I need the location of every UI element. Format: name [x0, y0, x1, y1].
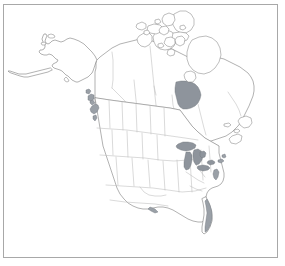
nova-scotia — [229, 134, 242, 144]
figure-root — [0, 0, 285, 266]
arctic-small-island-a — [155, 19, 161, 24]
north-america-map — [0, 0, 285, 266]
haida-gwaii-north — [86, 89, 91, 94]
prince-patrick-island — [136, 22, 146, 30]
kodiak-island — [64, 77, 69, 82]
long-island — [218, 159, 224, 163]
alaska-group — [8, 34, 97, 82]
aleutian-chain — [8, 68, 52, 77]
georgian-bay — [200, 151, 206, 158]
lake-erie — [197, 165, 210, 171]
newfoundland — [238, 116, 252, 128]
cape-cod — [222, 154, 226, 158]
somerset-island — [175, 36, 185, 46]
king-william-island — [167, 49, 175, 56]
bc-coastal-island-a — [90, 100, 95, 105]
seward-peninsula — [48, 34, 55, 38]
alaska-mainland — [39, 34, 97, 82]
prince-edward-island — [234, 129, 240, 133]
st-lawrence-island — [41, 42, 46, 45]
olympic-coast — [93, 115, 97, 121]
